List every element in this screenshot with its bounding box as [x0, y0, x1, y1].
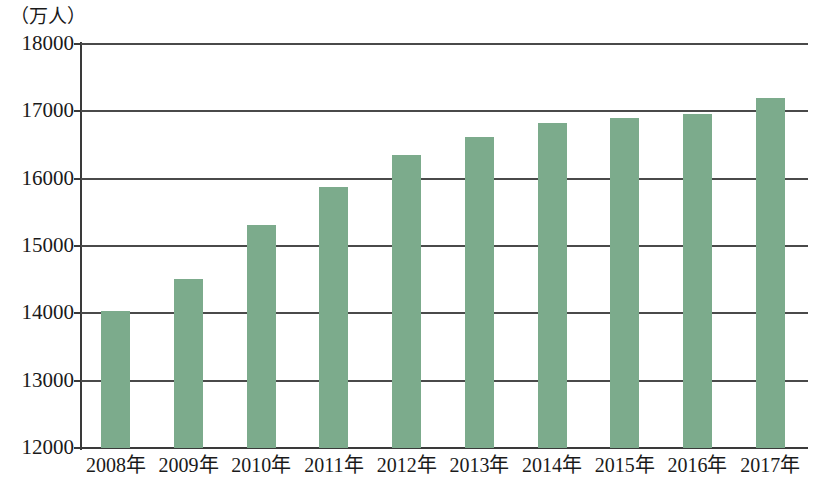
x-axis-tick-label: 2012年	[377, 452, 437, 478]
x-axis-tick-label: 2013年	[449, 452, 509, 478]
x-axis-tick-label: 2014年	[522, 452, 582, 478]
bar-chart: （万人） 12000130001400015000160001700018000…	[0, 0, 818, 481]
bar	[683, 114, 712, 448]
y-axis-tick-label: 14000	[0, 302, 74, 323]
bar	[610, 118, 639, 448]
bar	[319, 187, 348, 448]
bar	[101, 311, 130, 448]
gridline	[81, 43, 808, 45]
x-axis-tick-label: 2016年	[667, 452, 727, 478]
bar	[756, 98, 785, 448]
y-axis-tick-mark	[74, 245, 81, 247]
bar	[465, 137, 494, 448]
bar	[174, 279, 203, 448]
y-axis-tick-label: 15000	[0, 235, 74, 256]
y-axis-tick-mark	[74, 43, 81, 45]
y-axis-tick-label: 13000	[0, 370, 74, 391]
x-axis-tick-labels: 2008年2009年2010年2011年2012年2013年2014年2015年…	[0, 452, 818, 481]
y-axis-tick-mark	[74, 178, 81, 180]
plot-area	[81, 44, 808, 448]
y-axis-tick-label: 16000	[0, 168, 74, 189]
bar	[538, 123, 567, 448]
x-axis-tick-label: 2008年	[86, 452, 146, 478]
x-axis-tick-label: 2010年	[231, 452, 291, 478]
y-axis-unit-label: （万人）	[10, 6, 86, 28]
y-axis-tick-mark	[74, 110, 81, 112]
bar	[392, 155, 421, 448]
bar	[247, 225, 276, 448]
y-axis-tick-mark	[74, 380, 81, 382]
y-axis-tick-mark	[74, 312, 81, 314]
x-axis-tick-label: 2017年	[740, 452, 800, 478]
x-axis-tick-label: 2009年	[159, 452, 219, 478]
y-axis-tick-label: 18000	[0, 33, 74, 54]
y-axis-tick-label: 17000	[0, 100, 74, 121]
x-axis-tick-label: 2011年	[304, 452, 363, 478]
y-axis-tick-mark	[74, 447, 81, 449]
gridline	[81, 110, 808, 112]
x-axis-tick-label: 2015年	[595, 452, 655, 478]
